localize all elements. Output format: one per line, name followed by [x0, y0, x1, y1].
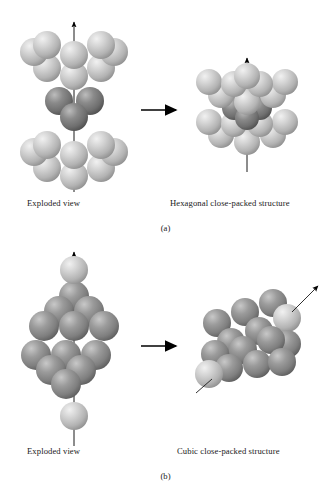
panel-b-illustration	[0, 250, 331, 450]
ccp-exploded-upper-layer	[29, 281, 119, 341]
panel-a-left-caption: Exploded view	[27, 198, 80, 208]
figure-root: Exploded view Hexagonal close-packed str…	[0, 0, 331, 499]
panel-a-letter: (a)	[0, 223, 331, 233]
ccp-assembled-structure	[195, 289, 301, 388]
ccp-exploded-lower-layer	[21, 340, 111, 399]
panel-b-right-caption: Cubic close-packed structure	[177, 446, 280, 456]
panel-a: Exploded view Hexagonal close-packed str…	[0, 0, 331, 250]
ccp-exploded-base-sphere	[60, 402, 88, 430]
ccp-exploded-apex-sphere	[60, 256, 88, 284]
panel-a-illustration	[0, 0, 331, 200]
panel-a-captions: Exploded view Hexagonal close-packed str…	[0, 198, 331, 214]
hcp-assembled-structure	[196, 63, 298, 155]
panel-b: Exploded view Cubic close-packed structu…	[0, 250, 331, 499]
panel-b-letter: (b)	[0, 471, 331, 481]
panel-b-left-caption: Exploded view	[27, 446, 80, 456]
panel-b-captions: Exploded view Cubic close-packed structu…	[0, 446, 331, 462]
panel-a-right-caption: Hexagonal close-packed structure	[170, 198, 290, 208]
